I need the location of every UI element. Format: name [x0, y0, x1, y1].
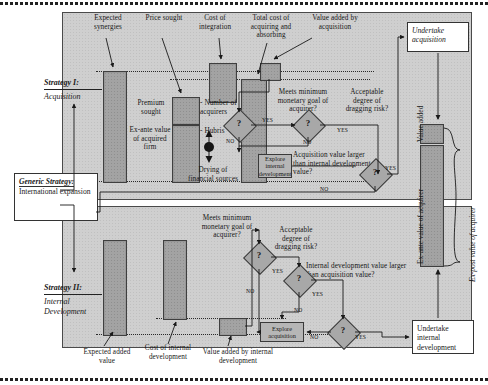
yes-label-bottom-3: YES — [355, 334, 366, 340]
label-number-of-acquirers-text: - Number of acquirers — [200, 99, 237, 116]
generic-strategy-value: International expansion — [19, 187, 90, 196]
label-value-added-vertical: Value added — [416, 106, 425, 142]
volatility-dot-icon — [204, 142, 214, 152]
label-total-cost-acquiring-text: Total cost of acquiring and absorbing — [251, 14, 292, 39]
label-cost-internal-development: Cost of internal development — [144, 344, 192, 361]
label-decision-top-3-text: Acquisition value larger than internal d… — [293, 151, 371, 176]
label-value-added-internal-development-text: Value added by internal development — [203, 348, 273, 365]
yes-label-bottom-2: YES — [312, 291, 323, 297]
label-decision-bottom-3-text: Internal development value larger than a… — [306, 262, 406, 279]
decision-diamond-top-1-glyph: ? — [228, 118, 250, 128]
figure-canvas: Expected synergies Price sought Cost of … — [0, 0, 488, 385]
process-explore-internal-development[interactable]: Explore internal development — [258, 154, 292, 178]
bottom-rule — [0, 378, 488, 381]
strategy-2-title: Strategy II: — [44, 283, 102, 295]
strategy-1-name: Acquisition — [44, 92, 80, 101]
label-decision-top-2-text: Acceptable degree of dragging risk? — [346, 88, 389, 113]
generic-strategy-box: Generic Strategy: International expansio… — [14, 173, 98, 221]
label-hubris-text: - Hubris — [200, 127, 225, 135]
label-decision-bottom-3: Internal development value larger than a… — [306, 262, 408, 279]
no-label-top-2: NO — [303, 139, 311, 145]
label-decision-bottom-1: Meets minimum monetary goal of acquirer? — [196, 214, 258, 240]
bar-cost-of-integration — [209, 63, 237, 103]
decision-diamond-bottom-3-glyph: ? — [332, 325, 354, 335]
process-explore-acquisition-label: Explore acquisition — [262, 325, 302, 339]
strategy-2-name: Internal Development — [44, 297, 86, 317]
label-expected-synergies-text: Expected synergies — [94, 14, 122, 31]
label-premium-sought: Premium sought — [130, 99, 172, 116]
label-expected-added-value-text: Expected added value — [83, 348, 130, 365]
yes-label-top-1: YES — [262, 117, 273, 123]
label-decision-top-2: Acceptable degree of dragging risk? — [340, 88, 394, 114]
yes-label-top-3: YES — [385, 165, 396, 171]
outcome-undertake-internal-development[interactable]: Undertake internal development — [412, 320, 474, 354]
outcome-undertake-acquisition[interactable]: Undertake acquisition — [407, 22, 469, 52]
label-ex-post-value-acquirer-text: Ex-post value of acquirer — [468, 207, 477, 282]
label-cost-of-integration-text: Cost of integration — [199, 14, 231, 31]
bar-value-added-internal-development — [219, 318, 247, 336]
label-ex-ante-value-acquirer-vertical: Ex-ante value of acquirer — [416, 189, 425, 264]
label-value-added-internal-development: Value added by internal development — [200, 348, 276, 365]
label-price-sought: Price sought — [142, 14, 186, 23]
label-total-cost-acquiring: Total cost of acquiring and absorbing — [240, 14, 302, 40]
label-premium-sought-text: Premium sought — [137, 99, 164, 116]
label-ex-ante-acquired-firm: Ex-ante value of acquired firm — [128, 126, 172, 152]
strategy-1-label: Strategy I: Acquisition — [44, 78, 102, 102]
no-label-bottom-3: NO — [310, 334, 318, 340]
label-decision-bottom-2: Acceptable degree of dragging risk? — [272, 226, 320, 252]
label-cost-of-integration: Cost of integration — [190, 14, 240, 31]
label-expected-synergies: Expected synergies — [80, 14, 136, 31]
label-value-added-acquisition: Value added by acquisition — [300, 14, 370, 31]
no-label-top-1: NO — [226, 138, 234, 144]
generic-strategy-title: Generic Strategy: — [19, 177, 74, 187]
top-rule — [0, 2, 488, 5]
process-explore-internal-development-label: Explore internal development — [259, 155, 292, 177]
no-label-bottom-2: NO — [294, 307, 302, 313]
label-value-added-acquisition-text: Value added by acquisition — [312, 14, 358, 31]
yes-label-bottom-1: YES — [272, 268, 283, 274]
no-label-bottom-1: NO — [246, 288, 254, 294]
label-expected-added-value: Expected added value — [82, 348, 132, 365]
bar-cost-internal-development — [163, 240, 187, 320]
decision-diamond-bottom-2-glyph: ? — [288, 273, 310, 283]
label-decision-bottom-1-text: Meets minimum monetary goal of acquirer? — [202, 214, 253, 239]
outcome-undertake-acquisition-label: Undertake acquisition — [412, 26, 446, 44]
bar-expected-synergies — [103, 71, 127, 183]
label-drying-financial-sources: Drying of financial sources — [185, 166, 241, 183]
decision-diamond-bottom-1-glyph: ? — [248, 250, 270, 260]
strategy-1-title: Strategy I: — [44, 78, 102, 90]
label-ex-ante-acquired-firm-text: Ex-ante value of acquired firm — [129, 126, 170, 151]
label-price-sought-text: Price sought — [146, 14, 183, 22]
yes-label-top-2: YES — [337, 127, 348, 133]
decision-diamond-top-3-glyph: ? — [364, 167, 386, 177]
label-cost-internal-development-text: Cost of internal development — [145, 344, 191, 361]
bar-value-added-by-acquisition — [260, 63, 281, 81]
label-ex-ante-value-acquirer-text: Ex-ante value of acquirer — [416, 189, 425, 264]
label-decision-top-1-text: Meets minimum monetary goal of acquirer? — [278, 88, 329, 113]
process-explore-acquisition[interactable]: Explore acquisition — [260, 322, 304, 342]
strategy-2-label: Strategy II: Internal Development — [44, 283, 102, 318]
outcome-undertake-internal-development-label: Undertake internal development — [417, 324, 456, 352]
label-decision-top-1: Meets minimum monetary goal of acquirer? — [272, 88, 334, 114]
label-value-added-vertical-text: Value added — [416, 106, 425, 142]
label-ex-post-value-acquirer-vertical: Ex-post value of acquirer — [468, 207, 477, 282]
decision-diamond-top-2-glyph: ? — [297, 118, 319, 128]
label-decision-bottom-2-text: Acceptable degree of dragging risk? — [275, 226, 318, 251]
no-label-top-3: NO — [320, 186, 328, 192]
bar-expected-added-value — [103, 240, 127, 336]
bar-premium-sought — [172, 97, 200, 125]
label-drying-financial-sources-text: Drying of financial sources — [188, 166, 238, 183]
